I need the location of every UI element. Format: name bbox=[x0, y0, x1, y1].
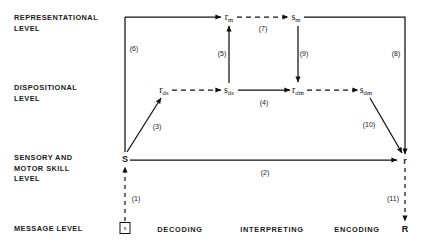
node-r-m-sub: m bbox=[228, 16, 233, 23]
node-s-ds-sub: ds bbox=[228, 89, 234, 96]
row-label-message: MESSAGE LEVEL bbox=[14, 224, 83, 235]
node-s-dm-sub: dm bbox=[364, 89, 373, 96]
node-s-m-sub: m bbox=[295, 16, 300, 23]
edge-label-11: (11) bbox=[387, 195, 399, 202]
row-label-dispositional: DISPOSITIONAL LEVEL bbox=[14, 83, 77, 104]
node-response-R: R bbox=[402, 224, 409, 234]
phase-label-interpreting: INTERPRETING bbox=[240, 225, 303, 234]
node-s-m: sm bbox=[291, 11, 300, 22]
node-r-dm: rdm bbox=[292, 84, 304, 95]
edge-label-8: (8) bbox=[392, 50, 401, 57]
message-stimulus-label: s bbox=[124, 225, 127, 232]
edge-label-1: (1) bbox=[132, 195, 141, 202]
phase-label-encoding: ENCODING bbox=[334, 225, 379, 234]
edge-label-5: (5) bbox=[218, 50, 227, 57]
edge-label-6: (6) bbox=[130, 45, 139, 52]
row-label-sensory-motor: SENSORY AND MOTOR SKILL LEVEL bbox=[14, 153, 72, 185]
node-s-ds: sds bbox=[224, 84, 234, 95]
edge-label-4: (4) bbox=[260, 99, 269, 106]
message-stimulus-box: s bbox=[120, 222, 131, 234]
edge-label-7: (7) bbox=[259, 25, 268, 32]
edge-label-3: (3) bbox=[153, 123, 162, 130]
node-response-r: r bbox=[403, 156, 407, 166]
edge-label-9: (9) bbox=[300, 50, 309, 57]
node-r-ds-sub: ds bbox=[163, 89, 169, 96]
diagram-canvas: REPRESENTATIONAL LEVEL DISPOSITIONAL LEV… bbox=[0, 0, 428, 245]
node-r-ds: rds bbox=[159, 84, 169, 95]
node-stimulus-S: S bbox=[122, 154, 128, 164]
node-r-dm-sub: dm bbox=[295, 89, 304, 96]
edge-label-10: (10) bbox=[363, 121, 375, 128]
edge-8-path bbox=[304, 17, 405, 154]
node-s-dm: sdm bbox=[360, 84, 373, 95]
row-label-representational: REPRESENTATIONAL LEVEL bbox=[14, 13, 98, 34]
edge-label-2: (2) bbox=[261, 169, 270, 176]
node-r-m: rm bbox=[225, 11, 234, 22]
phase-label-decoding: DECODING bbox=[157, 225, 202, 234]
